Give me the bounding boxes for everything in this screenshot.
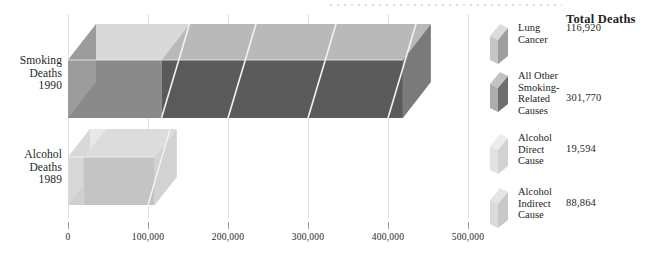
legend-label-alcohol-direct-line1: Alcohol	[518, 132, 574, 144]
legend-swatch-alcohol-indirect-icon	[488, 186, 514, 230]
axis-tick-100000	[148, 222, 149, 229]
category-label-smoking-line1: Smoking	[0, 54, 62, 67]
axis-tick-400000	[388, 222, 389, 229]
category-label-alcohol-deaths: Alcohol Deaths 1989	[0, 148, 62, 186]
legend-value-all-other-smoking-related: 301,770	[566, 92, 658, 103]
category-label-alcohol-line2: Deaths	[0, 161, 62, 174]
axis-tick-500000	[468, 222, 469, 229]
axis-label-300000: 300,000	[292, 232, 324, 242]
category-label-smoking-line3: 1990	[0, 79, 62, 92]
legend: Total Deaths Lung Cancer 116,920 All Oth	[488, 0, 664, 257]
category-label-smoking-deaths: Smoking Deaths 1990	[0, 54, 62, 92]
axis-label-100000: 100,000	[132, 232, 164, 242]
legend-value-alcohol-indirect-cause: 88,864	[566, 197, 658, 208]
legend-swatch-alcohol-direct-icon	[488, 132, 514, 176]
legend-label-alcohol-indirect-line1: Alcohol	[518, 186, 574, 198]
plot-area: 0 100,000 200,000 300,000 400,000 500,00…	[0, 0, 520, 257]
category-label-alcohol-line1: Alcohol	[0, 148, 62, 161]
legend-label-all-other-line1: All Other	[518, 70, 574, 82]
legend-swatch-all-other-smoking-related-icon	[488, 70, 514, 114]
legend-swatch-lung-cancer-icon	[488, 22, 514, 66]
axis-label-500000: 500,000	[452, 232, 484, 242]
legend-label-alcohol-indirect-line3: Cause	[518, 209, 574, 221]
legend-value-alcohol-direct-cause: 19,594	[566, 143, 658, 154]
chart-canvas: 0 100,000 200,000 300,000 400,000 500,00…	[0, 0, 664, 257]
legend-value-lung-cancer: 116,920	[566, 22, 658, 33]
axis-label-400000: 400,000	[372, 232, 404, 242]
axis-tick-200000	[228, 222, 229, 229]
axis-label-0: 0	[66, 232, 71, 242]
axis-tick-0	[68, 222, 69, 229]
category-label-smoking-line2: Deaths	[0, 67, 62, 80]
legend-label-all-other-line4: Causes	[518, 105, 574, 117]
category-label-alcohol-line3: 1989	[0, 173, 62, 186]
legend-label-alcohol-direct-line3: Cause	[518, 155, 574, 167]
axis-label-200000: 200,000	[212, 232, 244, 242]
axis-tick-300000	[308, 222, 309, 229]
bar-alcohol-deaths	[0, 0, 520, 257]
legend-label-lung-cancer-line2: Cancer	[518, 34, 574, 46]
